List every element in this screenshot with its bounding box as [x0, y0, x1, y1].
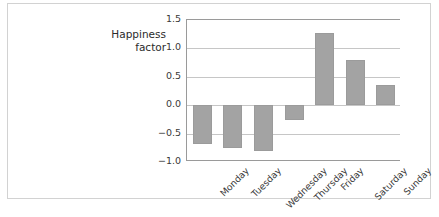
gridline — [187, 77, 400, 78]
y-axis-tick-labels: 1.51.00.50.0−0.5−1.0 — [145, 0, 181, 217]
gridline — [187, 48, 400, 49]
y-axis-tick-label: 1.5 — [147, 14, 181, 24]
y-axis-tick-label: 0.5 — [147, 71, 181, 81]
bar — [315, 33, 334, 105]
y-axis-tick-label: −0.5 — [147, 128, 181, 138]
bar — [285, 105, 304, 120]
x-axis-tick-label: Monday — [218, 165, 251, 198]
bar — [376, 85, 395, 105]
bar — [254, 105, 273, 150]
gridline — [187, 134, 400, 135]
x-axis-tick-label: Tuesday — [249, 165, 283, 199]
y-axis-tick-label: 0.0 — [147, 99, 181, 109]
bar — [346, 60, 365, 105]
x-axis-tick-labels: MondayTuesdayWednesdayThursdayFridaySatu… — [186, 161, 400, 217]
y-axis-tick-label: −1.0 — [147, 156, 181, 166]
y-axis-tick-label: 1.0 — [147, 42, 181, 52]
bar — [223, 105, 242, 148]
bar — [193, 105, 212, 144]
plot-area — [186, 19, 400, 161]
chart-figure: Happiness factor 1.51.00.50.0−0.5−1.0 Mo… — [0, 0, 439, 217]
